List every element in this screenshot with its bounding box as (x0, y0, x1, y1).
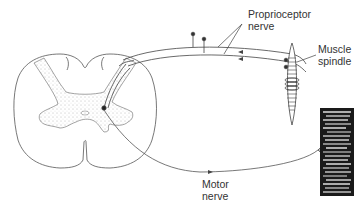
skeletal-muscle (320, 108, 354, 196)
motor-nerve-label-line2: nerve (202, 190, 229, 202)
motor-nerve-label-line1: Motor (202, 178, 229, 190)
motor-nerve (104, 110, 323, 172)
muscle-spindle (284, 43, 316, 125)
muscle-spindle-label-line1: Muscle (318, 43, 351, 55)
muscle-spindle-label: Muscle spindle (318, 43, 351, 67)
proprioceptor-label-pointers (218, 24, 242, 54)
proprioceptor-label-line1: Proprioceptor (248, 8, 311, 20)
motor-direction-arrow (208, 170, 213, 174)
proprioceptor-label: Proprioceptor nerve (248, 8, 311, 32)
muscle-spindle-label-line2: spindle (318, 55, 351, 67)
grey-matter (34, 58, 136, 132)
proprioceptor-label-line2: nerve (248, 20, 311, 32)
proprioceptor-nerve (104, 47, 306, 108)
motor-nerve-label: Motor nerve (202, 178, 229, 202)
nerve-direction-arrows (238, 50, 243, 61)
